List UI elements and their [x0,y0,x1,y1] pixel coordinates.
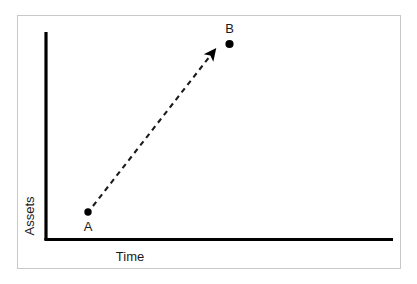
figure-container: A B Time Assets [0,0,417,284]
data-point-b-label: B [225,21,234,36]
data-point-a-label: A [84,219,93,234]
canvas-background [0,0,417,284]
x-axis-title: Time [116,249,144,264]
y-axis-title: Assets [22,196,37,236]
assets-over-time-diagram: A B Time Assets [0,0,417,284]
data-point-b [225,40,233,48]
data-point-a [84,208,91,215]
